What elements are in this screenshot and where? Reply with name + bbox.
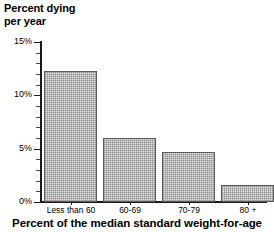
bar: [103, 138, 156, 202]
x-axis-tick-label: Less than 60: [47, 205, 96, 215]
x-axis-tick-label: 80 +: [240, 205, 257, 215]
bar-chart: Percent dying per year 0%5%10%15% Less t…: [0, 0, 274, 232]
y-axis-tick-label: 10%: [2, 90, 32, 99]
bar: [44, 71, 97, 202]
y-axis-tick-label: 5%: [2, 144, 32, 153]
x-axis-tick-label: 60-69: [119, 205, 141, 215]
plot-area: [40, 42, 272, 202]
y-axis-tick-major: [34, 202, 40, 203]
y-axis-tick-labels: 0%5%10%15%: [0, 0, 32, 232]
x-axis-tick-label: 70-79: [178, 205, 200, 215]
y-axis-tick-label: 15%: [2, 37, 32, 46]
y-axis-tick-label: 0%: [2, 197, 32, 206]
bar: [162, 152, 215, 202]
bar: [221, 185, 274, 202]
x-axis-title: Percent of the median standard weight-fo…: [0, 217, 274, 229]
